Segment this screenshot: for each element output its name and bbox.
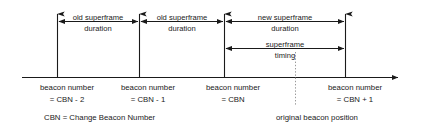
timing-diagram: old superframe duration old superframe d… bbox=[0, 0, 428, 129]
span-label-new-superframe-line2: duration bbox=[271, 25, 298, 33]
beacon-label-cbn-minus-1-line2: = CBN - 1 bbox=[131, 96, 165, 104]
span-label-old-superframe-2-line2: duration bbox=[168, 25, 195, 33]
beacon-label-cbn-line1: beacon number bbox=[206, 84, 260, 92]
diagram-canvas bbox=[0, 0, 428, 129]
beacon-label-cbn-plus-1-line1: beacon number bbox=[328, 84, 382, 92]
beacon-label-cbn-plus-1-line2: = CBN + 1 bbox=[337, 96, 373, 104]
legend-cbn-definition: CBN = Change Beacon Number bbox=[44, 114, 155, 122]
span-label-superframe-timing-line1: superframe bbox=[266, 41, 304, 49]
beacon-label-cbn-minus-1-line1: beacon number bbox=[121, 84, 175, 92]
span-label-old-superframe-2-line1: old superframe bbox=[157, 14, 208, 22]
beacon-label-cbn-minus-2-line2: = CBN - 2 bbox=[50, 96, 84, 104]
span-label-old-superframe-1-line2: duration bbox=[84, 25, 111, 33]
span-label-superframe-timing-line2: timing bbox=[275, 52, 295, 60]
original-beacon-position-label: original beacon position bbox=[276, 114, 358, 122]
span-label-new-superframe-line1: new superframe bbox=[258, 14, 312, 22]
beacon-label-cbn-line2: = CBN bbox=[221, 96, 244, 104]
span-label-old-superframe-1-line1: old superframe bbox=[73, 14, 124, 22]
beacon-label-cbn-minus-2-line1: beacon number bbox=[40, 84, 94, 92]
